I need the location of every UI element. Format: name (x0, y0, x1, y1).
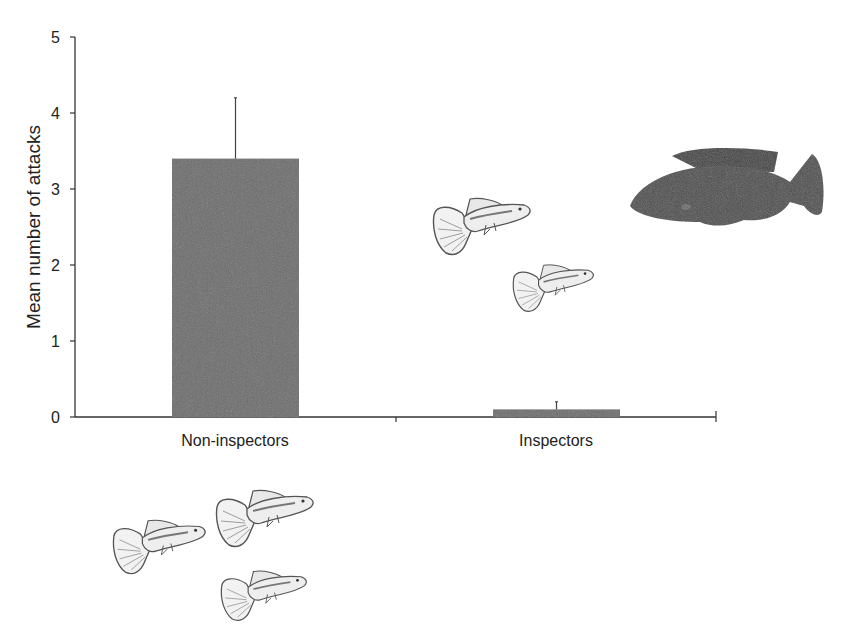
y-tick-label: 0 (51, 409, 60, 426)
y-tick-label: 2 (51, 257, 60, 274)
bar-chart: 5 4 3 2 1 0 Mean number of attacks Non-i… (0, 0, 848, 636)
guppy-icon (434, 198, 531, 254)
bar-inspectors (493, 409, 620, 417)
y-tick-label: 3 (51, 181, 60, 198)
y-tick-label: 4 (51, 105, 60, 122)
guppy-icon (217, 490, 314, 546)
y-axis-title: Mean number of attacks (23, 125, 44, 329)
guppy-icon (113, 520, 205, 573)
guppy-icon (221, 571, 306, 620)
bar-non-inspectors (172, 159, 299, 417)
x-category-label: Non-inspectors (181, 432, 289, 449)
y-tick-label: 5 (51, 29, 60, 46)
predator-fish-icon (630, 148, 824, 226)
bars (172, 98, 620, 417)
y-tick-label: 1 (51, 333, 60, 350)
guppy-icon (513, 265, 593, 312)
x-category-label: Inspectors (519, 432, 593, 449)
y-ticks: 5 4 3 2 1 0 (51, 29, 75, 426)
